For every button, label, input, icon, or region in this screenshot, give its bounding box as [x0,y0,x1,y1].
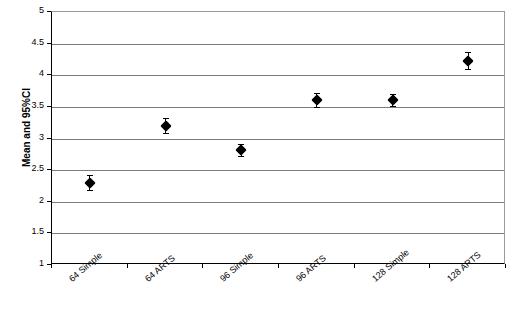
x-axis-tick-mark [202,264,203,268]
x-axis-tick-mark [505,264,506,268]
error-bar-cap-lower [465,69,471,70]
gridline [52,233,504,234]
gridline [52,44,504,45]
mean-marker [462,55,473,66]
error-bar-cap-lower [238,156,244,157]
mean-marker [84,177,95,188]
gridline [52,107,504,108]
error-bar-cap-upper [163,118,169,119]
gridline [52,202,504,203]
mean-marker [311,94,322,105]
gridline [52,75,504,76]
error-bar-cap-upper [87,175,93,176]
y-axis-tick-label: 3 [0,132,44,142]
x-axis-tick-mark [127,264,128,268]
y-axis-tick-label: 1.5 [0,226,44,236]
mean-marker [235,144,246,155]
y-axis-title: Mean and 95%CI [21,58,32,198]
y-axis-tick-label: 3.5 [0,100,44,110]
error-bar-cap-lower [87,190,93,191]
error-bar-cap-lower [163,133,169,134]
chart-container: Mean and 95%CI 54.543.532.521.51 64 Simp… [0,0,523,334]
x-axis-tick-mark [51,264,52,268]
x-axis-tick-mark [278,264,279,268]
x-axis-tick-mark [429,264,430,268]
mean-marker [160,120,171,131]
y-axis-tick-label: 1 [0,258,44,268]
gridline [52,170,504,171]
y-axis-tick-label: 4 [0,68,44,78]
plot-area [51,11,505,264]
y-axis-tick-label: 2 [0,195,44,205]
y-axis-tick-label: 5 [0,5,44,15]
x-axis-tick-mark [354,264,355,268]
error-bar-cap-upper [465,52,471,53]
mean-marker [387,94,398,105]
error-bar-cap-lower [314,107,320,108]
y-axis-tick-label: 2.5 [0,163,44,173]
y-axis-tick-label: 4.5 [0,37,44,47]
gridline [52,139,504,140]
